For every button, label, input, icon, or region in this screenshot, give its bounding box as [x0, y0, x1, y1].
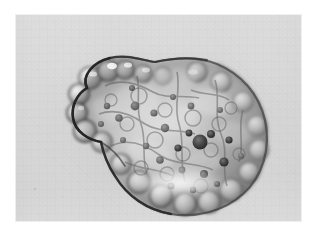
- diffraction-halo-bright: [111, 164, 249, 206]
- micrograph-plate: [0, 0, 306, 236]
- micrograph-image: [15, 14, 302, 222]
